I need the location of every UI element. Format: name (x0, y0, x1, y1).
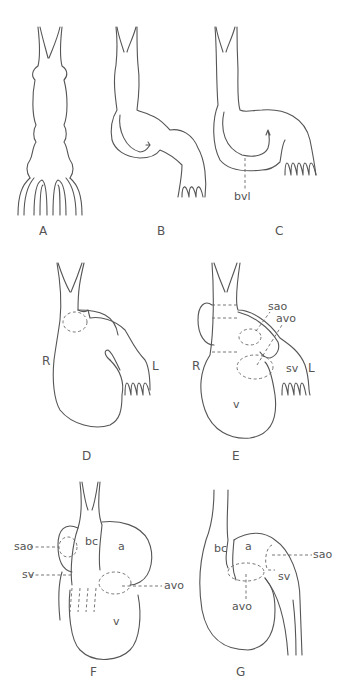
panel-d: R L D (42, 263, 159, 463)
panel-label-c: C (275, 224, 283, 238)
annotation-a-f: a (118, 540, 125, 553)
annotation-v-e: v (233, 398, 240, 411)
panel-label-g: G (236, 665, 245, 679)
panel-e: sao avo R sv L v E (192, 263, 315, 463)
annotation-bvl: bvl (234, 190, 251, 203)
panel-label-e: E (232, 449, 240, 463)
panel-f: bc a sao sv avo v F (14, 482, 184, 679)
annotation-l-d: L (152, 359, 159, 373)
annotation-sv-f: sv (22, 568, 35, 581)
annotation-v-f: v (113, 615, 120, 628)
panel-label-f: F (90, 665, 97, 679)
panel-label-b: B (157, 224, 165, 238)
annotation-bc-g: bc (214, 542, 227, 555)
annotation-l-e: L (308, 361, 315, 375)
annotation-a-g: a (245, 540, 252, 553)
panel-label-a: A (39, 224, 48, 238)
panel-a: A (18, 27, 82, 238)
panel-g: bc a sao sv avo G (200, 490, 333, 679)
annotation-r-e: R (192, 359, 200, 373)
heart-development-diagram: A B bvl C R L D (0, 0, 346, 698)
annotation-bc-f: bc (85, 535, 98, 548)
panel-label-d: D (82, 449, 91, 463)
annotation-sv-e: sv (286, 362, 299, 375)
annotation-sv-g: sv (278, 570, 291, 583)
annotation-sao-f: sao (14, 540, 33, 553)
annotation-sao-g: sao (313, 548, 332, 561)
annotation-avo-g: avo (232, 600, 252, 613)
panel-b: B (111, 27, 206, 238)
annotation-r-d: R (42, 354, 50, 368)
panel-c: bvl C (214, 27, 316, 238)
annotation-avo-f: avo (164, 579, 184, 592)
annotation-avo-e: avo (276, 312, 296, 325)
